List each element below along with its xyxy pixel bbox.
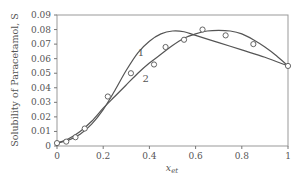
y-tick-label: 0.07 — [31, 39, 51, 49]
y-tick-label: 0.03 — [31, 97, 51, 107]
data-point — [64, 139, 69, 144]
y-axis: 00.010.020.030.040.050.060.070.080.09 — [31, 10, 57, 151]
curve-1 — [57, 31, 288, 143]
data-point — [223, 33, 228, 38]
y-tick-label: 0.02 — [31, 112, 51, 122]
y-tick-label: 0.05 — [31, 68, 51, 78]
data-point — [251, 42, 256, 47]
x-tick-label: 0.4 — [142, 151, 157, 161]
y-tick-label: 0.04 — [31, 83, 51, 93]
x-tick-label: 0.6 — [188, 151, 203, 161]
curve-label-2: 2 — [142, 73, 148, 84]
y-tick-label: 0.09 — [31, 10, 51, 20]
x-axis: 00.20.40.60.81 — [54, 146, 291, 161]
x-axis-title: xet — [166, 162, 179, 175]
x-tick-label: 0 — [54, 151, 60, 161]
plot-border — [57, 15, 288, 146]
data-point — [128, 71, 133, 76]
data-point — [151, 62, 156, 67]
x-axis-title-subscript: et — [171, 167, 178, 175]
x-tick-label: 1 — [285, 151, 291, 161]
x-tick-label: 0.2 — [96, 151, 110, 161]
data-point — [200, 27, 205, 32]
y-tick-label: 0.06 — [31, 54, 51, 64]
data-point — [73, 135, 78, 140]
x-tick-label: 0.8 — [235, 151, 250, 161]
curves — [57, 30, 288, 143]
data-point — [181, 37, 186, 42]
plot-frame — [57, 15, 288, 146]
data-point — [163, 44, 168, 49]
y-tick-label: 0.08 — [31, 25, 51, 35]
chart: 00.010.020.030.040.050.060.070.080.09 00… — [0, 0, 304, 179]
data-point — [82, 126, 87, 131]
data-points — [54, 27, 290, 146]
data-point — [105, 94, 110, 99]
data-point — [285, 63, 290, 68]
data-point — [54, 140, 59, 145]
y-tick-label: 0 — [45, 141, 51, 151]
curve-2 — [57, 30, 288, 143]
y-axis-title: Solubility of Paracetamol, S — [9, 13, 20, 147]
curve-label-1: 1 — [138, 47, 144, 58]
y-tick-label: 0.01 — [31, 126, 51, 136]
